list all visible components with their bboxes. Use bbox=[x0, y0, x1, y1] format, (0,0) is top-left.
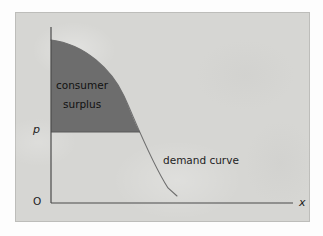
consumer-surplus-label-line1: consumer bbox=[56, 80, 108, 91]
figure-root: consumer surplus demand curve O p x bbox=[0, 0, 323, 236]
quantity-axis-label: x bbox=[299, 197, 306, 208]
demand-curve-label: demand curve bbox=[163, 155, 239, 166]
consumer-surplus-label-line2: surplus bbox=[63, 99, 101, 110]
price-axis-label: p bbox=[33, 124, 40, 135]
origin-label: O bbox=[33, 196, 41, 207]
chart-canvas bbox=[0, 0, 323, 236]
